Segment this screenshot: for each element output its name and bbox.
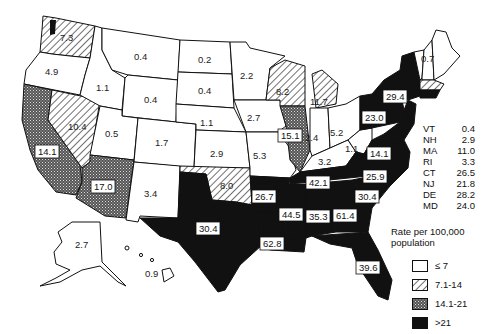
label-IL: 15.1 — [278, 129, 302, 142]
label-IN: 2.4 — [305, 132, 318, 143]
label-OK: 8.0 — [220, 180, 233, 191]
label-OH: 5.2 — [330, 127, 343, 138]
legend-item-high: 14.1-21 — [412, 294, 481, 313]
label-PA: 23.0 — [362, 111, 386, 124]
hawaii-island-small — [125, 246, 129, 250]
svg-text:17.0: 17.0 — [94, 181, 113, 192]
label-AZ: 17.0 — [91, 180, 115, 193]
state-MA — [420, 80, 444, 90]
svg-text:44.5: 44.5 — [282, 209, 301, 220]
label-IA: 2.7 — [247, 112, 260, 123]
state-AK — [40, 222, 126, 286]
label-VA: 14.1 — [367, 147, 391, 160]
small-state-row: NH2.9 — [423, 134, 475, 145]
label-MT: 0.4 — [134, 51, 147, 62]
label-ND: 0.2 — [198, 54, 211, 65]
svg-text:30.4: 30.4 — [199, 223, 218, 234]
label-MS: 44.5 — [279, 208, 303, 221]
svg-text:23.0: 23.0 — [365, 112, 384, 123]
label-AK: 2.7 — [75, 239, 88, 250]
svg-text:26.7: 26.7 — [255, 191, 274, 202]
small-state-row: DE28.2 — [423, 189, 475, 200]
legend-item-very-high: >21 — [412, 313, 481, 332]
label-AL: 35.3 — [306, 210, 330, 223]
state-ME — [432, 30, 460, 80]
label-MN: 2.2 — [240, 70, 253, 81]
label-OR: 4.9 — [45, 66, 58, 77]
svg-text:14.1: 14.1 — [38, 146, 57, 157]
dotted-swatch-icon — [412, 298, 428, 310]
small-state-row: CT26.5 — [423, 167, 475, 178]
map-legend: Rate per 100,000 population ≤ 7 7.1-14 1… — [391, 226, 481, 332]
legend-item-mid: 7.1-14 — [412, 275, 481, 294]
label-WA: 7.3 — [60, 32, 73, 43]
label-MI: 11.7 — [310, 96, 328, 107]
label-FL: 39.6 — [356, 261, 380, 274]
svg-text:35.3: 35.3 — [309, 211, 328, 222]
label-NY: 29.4 — [383, 90, 407, 103]
label-NV: 10.4 — [68, 121, 87, 132]
hatched-swatch-icon — [412, 279, 428, 291]
label-MO: 5.3 — [253, 150, 266, 161]
label-KY: 3.2 — [318, 156, 331, 167]
label-WY: 0.4 — [144, 94, 157, 105]
svg-text:25.9: 25.9 — [366, 171, 385, 182]
svg-text:61.4: 61.4 — [336, 210, 355, 221]
small-state-row: VT0.4 — [423, 123, 475, 134]
solid-swatch-icon — [412, 317, 428, 329]
label-NC: 25.9 — [363, 170, 387, 183]
svg-text:14.1: 14.1 — [370, 148, 389, 159]
label-NE: 1.1 — [200, 117, 213, 128]
hawaii-island-small — [150, 258, 153, 261]
hawaii-island-small — [139, 253, 142, 256]
label-TN: 42.1 — [306, 176, 330, 189]
label-HI: 0.9 — [145, 268, 158, 279]
small-state-row: RI3.3 — [423, 156, 475, 167]
state-HI — [162, 268, 174, 282]
small-state-row: NJ21.8 — [423, 178, 475, 189]
svg-text:30.4: 30.4 — [358, 191, 377, 202]
label-CA: 14.1 — [35, 145, 59, 158]
label-AR: 26.7 — [252, 190, 276, 203]
label-WI: 8.2 — [276, 86, 289, 97]
label-WV: 1.1 — [345, 143, 358, 154]
blank-swatch-icon — [412, 260, 428, 272]
small-state-row: MD24.0 — [423, 200, 475, 211]
svg-text:39.6: 39.6 — [359, 262, 378, 273]
legend-item-low: ≤ 7 — [412, 256, 481, 275]
label-ME: 0.7 — [421, 53, 434, 64]
label-UT: 0.5 — [105, 128, 118, 139]
state-WI — [266, 60, 305, 106]
small-state-row: MA11.0 — [423, 145, 475, 156]
svg-text:62.8: 62.8 — [263, 238, 282, 249]
legend-title: Rate per 100,000 population — [391, 226, 481, 248]
state-CT-RI — [420, 90, 440, 98]
label-KS: 2.9 — [210, 148, 223, 159]
label-CO: 1.7 — [155, 137, 168, 148]
label-LA: 62.8 — [260, 237, 284, 250]
svg-text:15.1: 15.1 — [281, 130, 300, 141]
small-states-table: VT0.4 NH2.9 MA11.0 RI3.3 CT26.5 NJ21.8 D… — [423, 123, 475, 211]
label-TX: 30.4 — [196, 222, 220, 235]
label-SC: 30.4 — [355, 190, 379, 203]
svg-text:29.4: 29.4 — [386, 91, 405, 102]
label-ID: 1.1 — [96, 82, 109, 93]
label-NM: 3.4 — [144, 188, 157, 199]
svg-text:42.1: 42.1 — [309, 177, 328, 188]
label-SD: 0.4 — [198, 85, 211, 96]
label-GA: 61.4 — [333, 209, 357, 222]
